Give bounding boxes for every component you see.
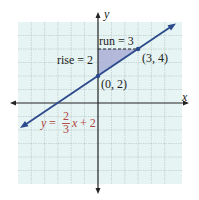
y-axis-label: y (103, 7, 110, 21)
equation-rest: + 2 (77, 116, 96, 130)
equation-numerator: 2 (63, 109, 69, 123)
rise-label: rise = 2 (57, 53, 93, 67)
point-a-label: (0, 2) (101, 77, 127, 91)
equation-denominator: 3 (63, 122, 69, 136)
point-3-4 (136, 47, 140, 51)
x-axis-label: x (181, 90, 188, 104)
run-label: run = 3 (99, 34, 134, 48)
coordinate-plane: x y run = 3 rise = 2 (0, 2) (3, 4) y = 2… (0, 0, 199, 200)
y-axis-top-arrow-icon (96, 12, 101, 18)
point-0-2 (96, 74, 100, 78)
point-b-label: (3, 4) (142, 51, 168, 65)
equation-equals: = (46, 116, 59, 130)
x-axis-left-arrow-icon (10, 101, 16, 106)
y-axis-bottom-arrow-icon (96, 188, 101, 194)
